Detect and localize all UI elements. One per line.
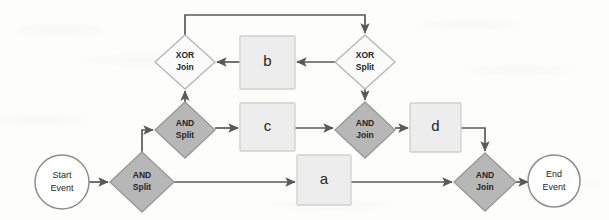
sequence-flow-and_split_1-to-and_split_2 <box>142 130 153 152</box>
node-task_d[interactable]: d <box>410 103 461 152</box>
node-and_split_1[interactable]: ANDSplit <box>110 152 174 212</box>
svg-text:b: b <box>263 52 271 69</box>
node-task_a[interactable]: a <box>297 155 351 205</box>
sequence-flow-xor_join-to-xor_split <box>185 15 365 35</box>
svg-text:AND: AND <box>476 170 494 180</box>
node-task_b[interactable]: b <box>240 36 295 89</box>
svg-text:XOR: XOR <box>176 50 194 60</box>
svg-text:c: c <box>264 117 272 134</box>
sequence-flow-task_d-to-and_join_2 <box>461 128 485 151</box>
node-and_join_2[interactable]: ANDJoin <box>454 153 516 211</box>
svg-text:End: End <box>546 169 562 179</box>
svg-text:AND: AND <box>356 118 374 128</box>
node-and_split_2[interactable]: ANDSplit <box>155 102 215 158</box>
svg-text:Join: Join <box>476 182 493 192</box>
svg-text:AND: AND <box>133 170 151 180</box>
svg-text:XOR: XOR <box>356 50 374 60</box>
svg-text:Event: Event <box>542 182 566 192</box>
node-end_event[interactable]: EndEvent <box>528 155 580 207</box>
node-xor_split[interactable]: XORSplit <box>335 35 395 89</box>
flow-canvas: StartEventANDSplitANDSplitXORJoinXORSpli… <box>0 0 609 220</box>
svg-text:Split: Split <box>133 182 152 192</box>
svg-text:Join: Join <box>176 62 193 72</box>
svg-text:Start: Start <box>52 170 72 180</box>
process-diagram: StartEventANDSplitANDSplitXORJoinXORSpli… <box>0 0 609 220</box>
node-xor_join[interactable]: XORJoin <box>155 35 215 89</box>
svg-text:d: d <box>431 117 439 134</box>
svg-text:a: a <box>320 170 329 187</box>
node-task_c[interactable]: c <box>240 103 295 151</box>
node-and_join_1[interactable]: ANDJoin <box>335 102 395 158</box>
svg-text:Split: Split <box>356 62 375 72</box>
svg-text:Event: Event <box>50 183 74 193</box>
node-start_event[interactable]: StartEvent <box>35 155 89 209</box>
svg-text:Split: Split <box>176 130 195 140</box>
svg-text:AND: AND <box>176 118 194 128</box>
svg-text:Join: Join <box>356 130 373 140</box>
